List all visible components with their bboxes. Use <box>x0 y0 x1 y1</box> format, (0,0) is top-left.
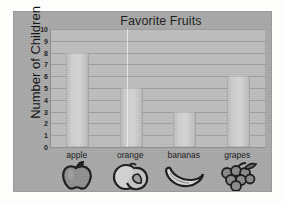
bar-bananas <box>173 112 196 147</box>
fruit-icon-row <box>50 161 264 191</box>
y-tick-label: 9 <box>44 37 48 44</box>
y-axis-title: Number of Children <box>28 5 43 121</box>
chart-card: Favorite Fruits Number of Children 10987… <box>13 11 272 192</box>
scan-artifact-line <box>127 29 128 147</box>
y-tick-label: 10 <box>40 26 48 33</box>
chart-screenshot: Favorite Fruits Number of Children 10987… <box>0 0 286 204</box>
x-category-label-bananas: bananas <box>167 150 200 160</box>
y-tick-label: 2 <box>44 120 48 127</box>
y-tick-label: 6 <box>44 73 48 80</box>
y-tick-label: 7 <box>44 61 48 68</box>
y-tick-label: 8 <box>44 49 48 56</box>
banana-icon <box>161 161 207 191</box>
x-category-label-apple: apple <box>66 150 87 160</box>
plot-area: 109876543210 <box>50 29 265 148</box>
apple-icon <box>54 161 100 191</box>
chart-title: Favorite Fruits <box>53 14 269 28</box>
x-category-label-orange: orange <box>117 150 143 160</box>
bar-grapes <box>227 76 250 147</box>
y-tick-label: 5 <box>44 85 48 92</box>
gridline <box>51 41 265 42</box>
orange-icon <box>107 161 153 191</box>
y-tick-label: 1 <box>44 132 48 139</box>
bar-apple <box>66 53 89 147</box>
y-tick-label: 3 <box>44 108 48 115</box>
x-category-label-grapes: grapes <box>224 150 250 160</box>
y-tick-label: 4 <box>44 96 48 103</box>
y-tick-label: 0 <box>44 144 48 151</box>
bar-orange <box>120 88 143 147</box>
grapes-icon <box>214 161 260 191</box>
gridline <box>51 29 265 30</box>
